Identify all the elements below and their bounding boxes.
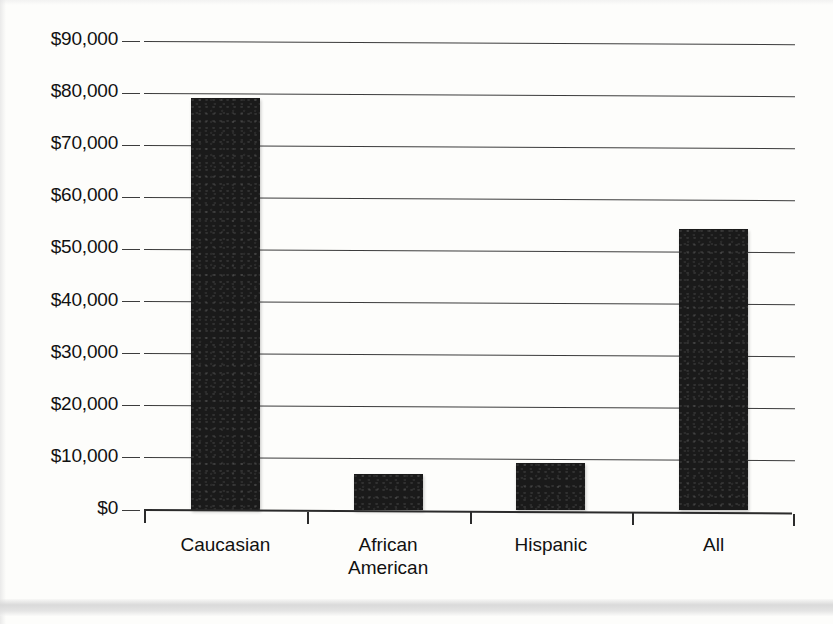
bar <box>191 98 260 510</box>
y-axis-tick-label: $80,000 <box>18 80 118 102</box>
y-axis-tick-label: $30,000 <box>18 341 118 363</box>
y-axis-tick-labels: $0$10,000$20,000$30,000$40,000$50,000$60… <box>0 0 118 624</box>
y-axis-tick-dash <box>122 197 140 198</box>
x-axis-tick <box>793 514 795 526</box>
y-axis-tick-dash <box>122 93 140 94</box>
bar <box>516 463 585 510</box>
y-axis-tick-label: $90,000 <box>18 28 118 50</box>
y-axis-tick-label: $10,000 <box>18 445 118 467</box>
x-axis-category-label: Caucasian <box>144 533 307 556</box>
x-axis-category-label: Hispanic <box>470 533 633 556</box>
bar <box>354 474 423 510</box>
x-axis-tick <box>470 512 472 524</box>
x-axis-tick <box>144 511 146 523</box>
bar-chart-figure: $0$10,000$20,000$30,000$40,000$50,000$60… <box>0 0 833 624</box>
x-axis-tick <box>632 513 634 525</box>
y-axis-tick-dash <box>122 353 140 354</box>
bar <box>679 229 748 510</box>
plot-area <box>144 41 795 510</box>
scan-edge-top <box>0 0 833 5</box>
y-axis-tick-dash <box>122 249 140 250</box>
y-axis-tick-label: $50,000 <box>18 236 118 258</box>
y-axis-tick-label: $40,000 <box>18 289 118 311</box>
y-axis-tick-label: $20,000 <box>18 393 118 415</box>
y-axis-tick-dash <box>122 41 140 42</box>
y-axis-tick-dash <box>122 457 140 458</box>
y-axis-tick-dash <box>122 405 140 406</box>
y-axis-tick-label: $70,000 <box>18 132 118 154</box>
y-axis-tick-dash <box>122 301 140 302</box>
scan-footer-band <box>0 599 833 616</box>
x-axis-tick <box>307 512 309 524</box>
y-axis-tick-label: $60,000 <box>18 184 118 206</box>
y-axis-tick-label: $0 <box>18 497 118 519</box>
y-axis-tick-dash <box>122 510 140 511</box>
x-axis-category-label: African American <box>307 533 470 579</box>
x-axis-category-label: All <box>632 533 795 556</box>
y-axis-tick-dash <box>122 145 140 146</box>
